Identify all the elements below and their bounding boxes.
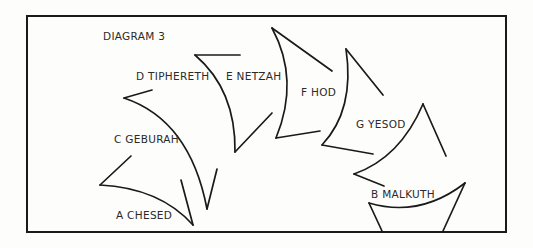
shape-hod	[272, 28, 332, 138]
yesod-lower-right-edge	[423, 104, 446, 156]
label-geburah: C GEBURAH	[114, 133, 179, 145]
label-chesed: A CHESED	[116, 209, 172, 221]
chesed-short-edge	[100, 156, 131, 185]
label-netzah: E NETZAH	[226, 70, 282, 82]
yesod-bottom-edge	[322, 145, 373, 154]
yesod-lower-short-edge	[354, 174, 384, 186]
malkuth-left-edge	[369, 203, 382, 231]
shape-yesod-lower	[354, 104, 446, 186]
geburah-short-edge	[124, 90, 152, 98]
yesod-top-edge	[346, 49, 383, 95]
shape-yesod	[322, 49, 383, 154]
label-malkuth: B MALKUTH	[371, 188, 435, 200]
label-tiphereth: D TIPHERETH	[136, 70, 209, 82]
yesod-lower-curved-edge	[354, 104, 423, 174]
diagram-title: DIAGRAM 3	[103, 30, 165, 42]
label-yesod: G YESOD	[356, 118, 406, 130]
hod-bottom-edge	[276, 131, 320, 138]
label-hod: F HOD	[301, 86, 336, 98]
netzah-straight-edge	[235, 113, 272, 152]
geburah-curved-edge	[124, 98, 207, 209]
hod-curved-edge	[272, 28, 287, 138]
diagram-3: DIAGRAM 3 A CHESED C GEBURAH D TIPHERETH…	[0, 0, 533, 248]
geburah-straight-edge	[207, 169, 217, 209]
